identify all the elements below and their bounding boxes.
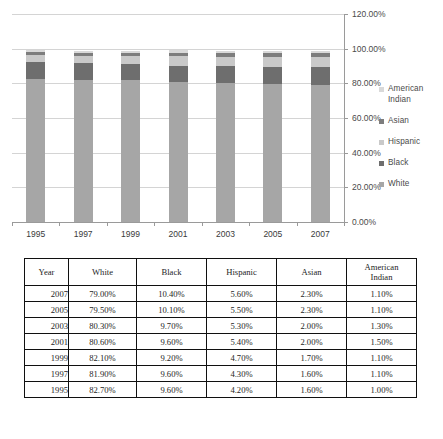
table-cell-american-indian: 1.10% [347,366,417,382]
bar-segment-black [263,67,282,85]
y-axis-tick [344,118,348,119]
table-cell-asian: 2.30% [277,302,347,318]
chart-bar [311,51,330,222]
bar-segment-white [263,84,282,222]
x-axis-tick [297,222,298,226]
table-cell-asian: 1.60% [277,382,347,398]
table-cell-black: 9.70% [137,318,207,334]
y-axis-tick-label: 20.00% [352,182,381,192]
table-header-cell: Hispanic [207,259,277,286]
bar-segment-white [121,80,140,222]
x-axis-tick-label: 2005 [253,229,293,239]
legend-item-label: Asian [388,116,409,127]
y-axis-tick-label: 40.00% [352,148,381,158]
bar-segment-black [169,66,188,83]
table-row: 199781.90%9.60%4.30%1.60%1.10% [25,366,417,382]
table-cell-american-indian: 1.30% [347,318,417,334]
table-cell-black: 9.60% [137,334,207,350]
table-cell-asian: 1.70% [277,350,347,366]
table-cell-asian: 2.00% [277,318,347,334]
y-axis-tick [344,14,348,15]
table-cell-asian: 2.00% [277,334,347,350]
data-table-region: YearWhiteBlackHispanicAsianAmericanIndia… [24,258,416,398]
legend-swatch-icon [379,119,384,124]
x-axis-tick-label: 2007 [300,229,340,239]
chart-bar [169,50,188,222]
legend-swatch-icon [379,182,384,187]
table-cell-year: 1999 [25,350,69,366]
y-axis-tick [344,49,348,50]
table-cell-year: 1995 [25,382,69,398]
bar-segment-white [311,85,330,222]
bar-segment-black [216,66,235,83]
table-cell-year: 2001 [25,334,69,350]
bar-segment-hispanic [121,56,140,64]
table-cell-black: 9.60% [137,382,207,398]
x-axis-tick [154,222,155,226]
x-axis-tick-label: 1997 [63,229,103,239]
table-row: 200779.00%10.40%5.60%2.30%1.10% [25,286,417,302]
y-axis-tick-label: 0.00% [352,217,376,227]
y-axis-tick-label: 100.00% [352,44,386,54]
x-axis-line [12,222,344,223]
bar-segment-black [26,62,45,79]
x-axis-tick-label: 1999 [111,229,151,239]
y-axis-tick-label: 80.00% [352,78,381,88]
table-header-cell: AmericanIndian [347,259,417,286]
race-distribution-table: YearWhiteBlackHispanicAsianAmericanIndia… [24,258,417,398]
bar-segment-white [26,79,45,222]
bar-segment-hispanic [74,56,93,63]
table-cell-black: 9.60% [137,366,207,382]
table-cell-black: 10.10% [137,302,207,318]
legend-swatch-icon [379,140,384,145]
x-axis-tick [59,222,60,226]
y-axis-tick [344,187,348,188]
legend-swatch-icon [379,161,384,166]
table-header-row: YearWhiteBlackHispanicAsianAmericanIndia… [25,259,417,286]
table-cell-year: 2005 [25,302,69,318]
legend-item-black[interactable]: Black [379,158,443,169]
x-axis-tick-label: 2003 [205,229,245,239]
table-cell-asian: 2.30% [277,286,347,302]
x-axis-tick [12,222,13,226]
table-cell-year: 2003 [25,318,69,334]
chart-plot-area [12,14,344,222]
table-cell-hispanic: 5.60% [207,286,277,302]
table-header-cell: Year [25,259,69,286]
legend-item-hispanic[interactable]: Hispanic [379,137,443,148]
bar-segment-hispanic [169,56,188,65]
table-row: 200579.50%10.10%5.50%2.30%1.10% [25,302,417,318]
x-axis-tick-label: 1995 [16,229,56,239]
legend-item-label: Hispanic [388,137,420,148]
table-cell-white: 80.30% [69,318,137,334]
y-axis-tick [344,153,348,154]
legend-item-label: AmericanIndian [388,84,423,105]
table-cell-hispanic: 4.70% [207,350,277,366]
table-cell-black: 10.40% [137,286,207,302]
table-cell-year: 2007 [25,286,69,302]
table-cell-american-indian: 1.50% [347,334,417,350]
chart-bar [263,51,282,222]
legend-swatch-icon [379,87,384,92]
chart-bar [121,51,140,222]
table-cell-white: 79.00% [69,286,137,302]
bar-segment-hispanic [263,57,282,67]
x-axis-tick [202,222,203,226]
x-axis-tick [344,222,345,226]
y-axis-tick-label: 120.00% [352,9,386,19]
bar-segment-white [169,82,188,222]
bar-segment-black [121,64,140,80]
table-cell-american-indian: 1.00% [347,382,417,398]
legend-item-asian[interactable]: Asian [379,116,443,127]
bar-segment-white [216,83,235,222]
table-cell-american-indian: 1.10% [347,286,417,302]
chart-bar [216,51,235,222]
legend-item-american[interactable]: AmericanIndian [379,84,443,105]
table-header-cell: White [69,259,137,286]
bar-segment-black [311,67,330,85]
bar-segment-black [74,63,93,80]
table-cell-american-indian: 1.10% [347,350,417,366]
table-header-cell: Black [137,259,207,286]
legend-item-white[interactable]: White [379,179,443,190]
legend-item-label: White [388,179,409,190]
